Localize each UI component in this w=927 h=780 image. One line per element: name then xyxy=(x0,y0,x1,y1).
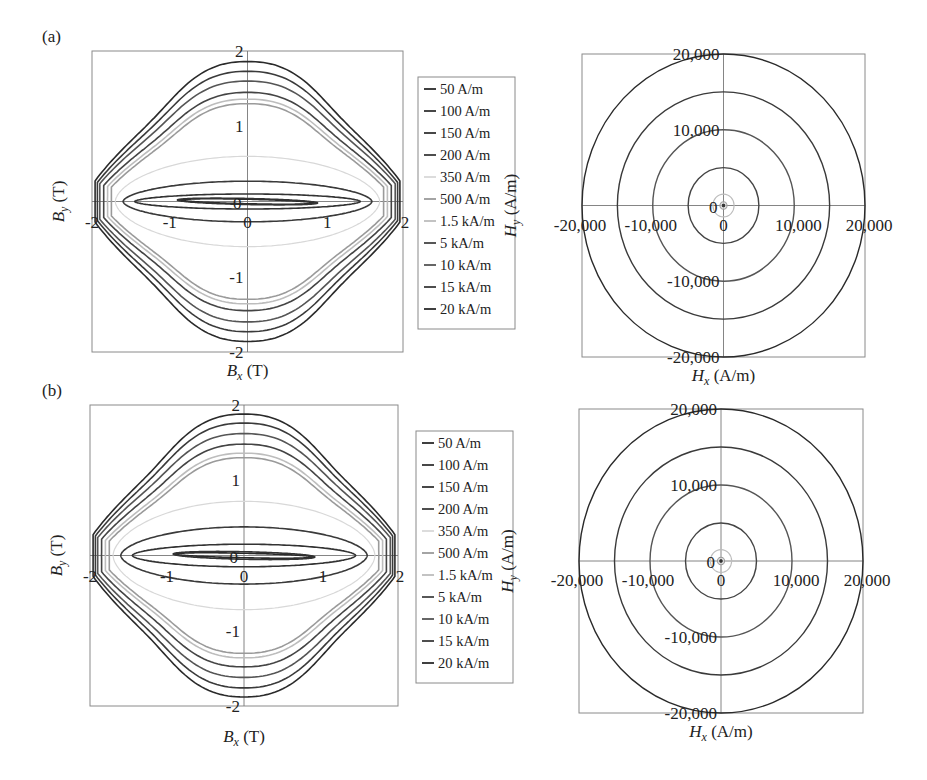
x-tick-label: 1 xyxy=(323,213,332,232)
legend-entry: 50 A/m xyxy=(438,435,482,451)
y-tick-label: -20,000 xyxy=(665,704,717,723)
chart-a-H: -20,000-10,000010,00020,000-20,000-10,00… xyxy=(501,45,892,388)
panel-label-b: (b) xyxy=(42,381,62,400)
chart-b-B: -2-1012-2-1012Bx (T)By (T)50 A/m100 A/m1… xyxy=(47,396,513,749)
x-tick-label: -20,000 xyxy=(551,571,603,590)
y-axis-label: By (T) xyxy=(49,181,71,223)
x-tick-label: 20,000 xyxy=(844,571,891,590)
chart-a-B: -2-1012-2-1012Bx (T)By (T)50 A/m100 A/m1… xyxy=(49,42,515,383)
y-tick-label: 2 xyxy=(232,396,241,415)
legend-entry: 150 A/m xyxy=(440,125,491,141)
x-axis-label: Hx (A/m) xyxy=(688,722,752,744)
x-axis-label: Bx (T) xyxy=(227,361,269,383)
x-axis-label: Hx (A/m) xyxy=(691,366,755,388)
y-axis-label: Hy (A/m) xyxy=(498,529,520,593)
x-tick-label: 0 xyxy=(719,216,728,235)
y-tick-label: 1 xyxy=(232,471,241,490)
legend-entry: 100 A/m xyxy=(440,103,491,119)
y-tick-label: 10,000 xyxy=(673,121,720,140)
y-tick-label: -2 xyxy=(226,697,240,716)
x-tick-label: 10,000 xyxy=(775,216,822,235)
x-tick-label: -2 xyxy=(85,213,99,232)
legend-entry: 350 A/m xyxy=(440,169,491,185)
y-tick-label: 20,000 xyxy=(670,400,717,419)
x-tick-label: 10,000 xyxy=(773,571,820,590)
x-tick-label: -1 xyxy=(163,213,177,232)
legend-entry: 15 kA/m xyxy=(438,633,490,649)
x-tick-label: 0 xyxy=(243,213,252,232)
legend-entry: 5 kA/m xyxy=(438,589,483,605)
y-tick-label: -10,000 xyxy=(667,272,719,291)
legend-entry: 15 kA/m xyxy=(440,279,492,295)
y-tick-label: 2 xyxy=(235,42,244,61)
y-tick-label: -20,000 xyxy=(667,348,719,367)
legend-entry: 500 A/m xyxy=(440,191,491,207)
legend-entry: 350 A/m xyxy=(438,523,489,539)
legend-entry: 10 kA/m xyxy=(440,257,492,273)
x-tick-label: 2 xyxy=(401,213,410,232)
x-tick-label: 0 xyxy=(240,567,249,586)
y-tick-label: 0 xyxy=(709,198,718,217)
x-tick-label: -2 xyxy=(83,567,97,586)
legend-entry: 10 kA/m xyxy=(438,611,490,627)
x-tick-label: -10,000 xyxy=(622,571,674,590)
legend-entry: 5 kA/m xyxy=(440,235,485,251)
y-axis-label: By (T) xyxy=(47,535,69,577)
legend-entry: 1.5 kA/m xyxy=(440,213,496,229)
y-tick-label: 0 xyxy=(233,194,242,213)
y-tick-label: 1 xyxy=(235,117,244,136)
y-tick-label: -1 xyxy=(229,268,243,287)
x-tick-label: 1 xyxy=(319,567,328,586)
x-tick-label: 2 xyxy=(396,567,405,586)
y-tick-label: -2 xyxy=(229,343,243,362)
x-axis-label: Bx (T) xyxy=(223,727,265,749)
legend-entry: 100 A/m xyxy=(438,457,489,473)
panel-label-a: (a) xyxy=(42,27,61,46)
legend-entry: 150 A/m xyxy=(438,479,489,495)
x-tick-label: -1 xyxy=(160,567,174,586)
x-tick-label: -20,000 xyxy=(554,216,606,235)
legend-entry: 50 A/m xyxy=(440,81,484,97)
y-tick-label: 0 xyxy=(230,548,239,567)
legend-entry: 500 A/m xyxy=(438,545,489,561)
legend-entry: 20 kA/m xyxy=(438,655,490,671)
figure: (a) (b) -2-1012-2-1012Bx (T)By (T)50 A/m… xyxy=(0,0,927,780)
y-tick-label: 20,000 xyxy=(673,45,720,64)
y-axis-label: Hy (A/m) xyxy=(501,174,523,238)
legend-entry: 200 A/m xyxy=(438,501,489,517)
y-tick-label: 0 xyxy=(707,553,716,572)
chart-b-H: -20,000-10,000010,00020,000-20,000-10,00… xyxy=(498,400,890,744)
y-tick-label: 10,000 xyxy=(670,476,717,495)
x-tick-label: 20,000 xyxy=(846,216,893,235)
x-tick-label: 0 xyxy=(717,571,726,590)
legend-entry: 20 kA/m xyxy=(440,301,492,317)
legend-entry: 1.5 kA/m xyxy=(438,567,494,583)
y-tick-label: -10,000 xyxy=(665,628,717,647)
y-tick-label: -1 xyxy=(226,622,240,641)
legend-entry: 200 A/m xyxy=(440,147,491,163)
x-tick-label: -10,000 xyxy=(625,216,677,235)
